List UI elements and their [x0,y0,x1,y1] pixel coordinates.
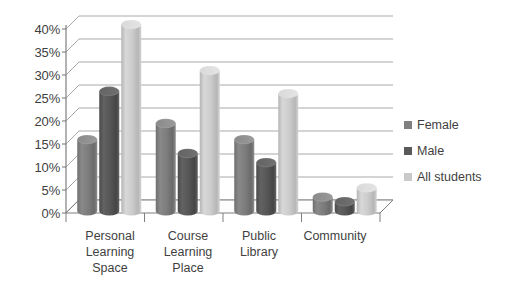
legend-item-female: Female [404,112,504,138]
bar-cylinder [335,197,355,216]
bar-cylinder [200,66,220,216]
legend-label: Female [417,119,459,132]
legend-swatch-icon [404,147,412,155]
x-category-label: Community [285,228,385,244]
bar-cylinder [99,87,119,216]
bar-cylinder [357,183,377,215]
chart-container: 40% 35% 30% 25% 20% 15% 10% 5% 0% [0,0,505,285]
bar-cylinder [278,89,298,216]
bar-cylinder [77,135,97,216]
bar-cylinder [156,119,176,216]
bar-series-group [77,20,377,216]
bar-cylinder [121,20,141,216]
legend-item-male: Male [404,138,504,164]
legend: Female Male All students [404,112,504,190]
legend-swatch-icon [404,173,412,181]
legend-item-all-students: All students [404,164,504,190]
bar-cylinder [234,135,254,216]
legend-swatch-icon [404,121,412,129]
bar-cylinder [256,158,276,216]
bar-cylinder [178,149,198,216]
bar-cylinder [313,192,333,215]
legend-label: Male [417,145,444,158]
legend-label: All students [417,171,482,184]
